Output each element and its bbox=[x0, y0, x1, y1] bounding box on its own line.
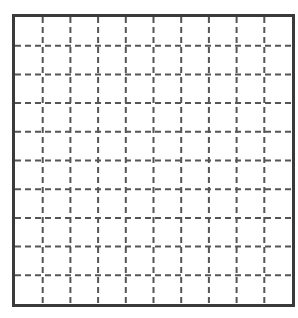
dashed-grid bbox=[15, 17, 292, 304]
grid-frame bbox=[12, 14, 295, 307]
